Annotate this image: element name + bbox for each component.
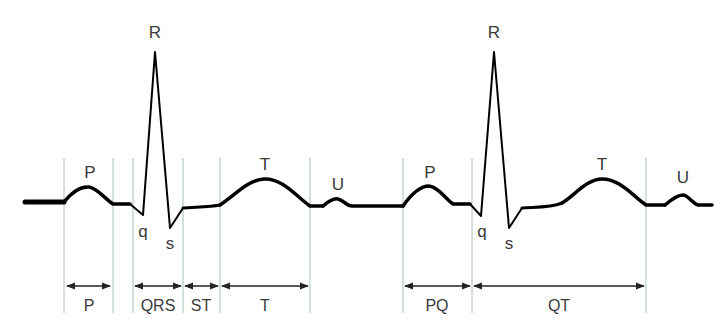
label-u-wave-2: U [677, 168, 689, 187]
ecg-waveform [25, 52, 712, 228]
label-p-wave-2: P [424, 163, 435, 182]
label-q-2: q [477, 222, 486, 241]
label-q-1: q [138, 222, 147, 241]
interval-label-st: ST [191, 297, 212, 314]
interval-label-p: P [84, 297, 95, 314]
label-u-wave-1: U [332, 175, 344, 194]
interval-label-qt: QT [548, 297, 570, 314]
qrs-complex-1 [130, 52, 183, 228]
st-segment-2 [522, 203, 562, 208]
u-wave-1 [323, 199, 403, 206]
interval-dividers [64, 158, 646, 313]
t-wave-1 [220, 179, 323, 206]
st-segment-1 [183, 205, 220, 208]
label-p-wave-1: P [84, 163, 95, 182]
interval-label-qrs: QRS [141, 297, 176, 314]
label-s-1: s [166, 234, 175, 253]
interval-labels: P QRS ST T PQ QT [84, 297, 571, 314]
p-wave-2 [403, 186, 470, 206]
label-s-2: s [505, 234, 514, 253]
label-r-peak-2: R [488, 23, 500, 42]
u-wave-2 [665, 195, 712, 205]
ecg-diagram: P R q s T U P R q s T U P QRS ST T PQ QT [0, 0, 720, 330]
t-wave-2 [562, 179, 665, 205]
label-t-wave-1: T [260, 155, 270, 174]
label-r-peak-1: R [149, 23, 161, 42]
label-t-wave-2: T [597, 155, 607, 174]
interval-label-t: T [260, 297, 270, 314]
p-wave-1 [64, 187, 130, 204]
interval-label-pq: PQ [425, 297, 448, 314]
qrs-complex-2 [470, 52, 522, 228]
